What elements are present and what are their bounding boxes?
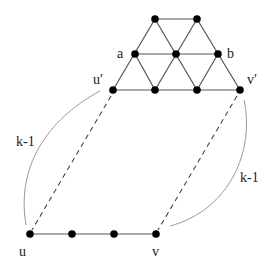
node-path-2 (110, 230, 118, 238)
label-left-arc: k-1 (16, 134, 35, 149)
label-u: u (19, 244, 26, 259)
dashed-edge-u-prime-u (32, 96, 111, 230)
node-v-prime (236, 86, 244, 94)
dashed-edge-v-prime-v (158, 96, 237, 230)
node-b (214, 50, 222, 58)
label-a: a (117, 46, 124, 61)
label-b: b (227, 46, 234, 61)
label-right-arc: k-1 (240, 170, 259, 185)
right-arc-k-minus-1 (170, 100, 247, 226)
label-u-prime: u′ (93, 72, 103, 87)
node-u (26, 230, 34, 238)
node-top-right (193, 15, 201, 23)
node-row3-3 (193, 86, 201, 94)
left-arc-k-minus-1 (24, 91, 100, 225)
node-v (152, 230, 160, 238)
node-a (131, 50, 139, 58)
node-middle (172, 50, 180, 58)
node-u-prime (109, 86, 117, 94)
node-path-1 (68, 230, 76, 238)
label-v: v (152, 244, 159, 259)
node-row3-2 (151, 86, 159, 94)
graph-diagram: a b u′ v′ u v k-1 k-1 (0, 0, 273, 269)
label-v-prime: v′ (247, 72, 257, 87)
node-top-left (151, 15, 159, 23)
